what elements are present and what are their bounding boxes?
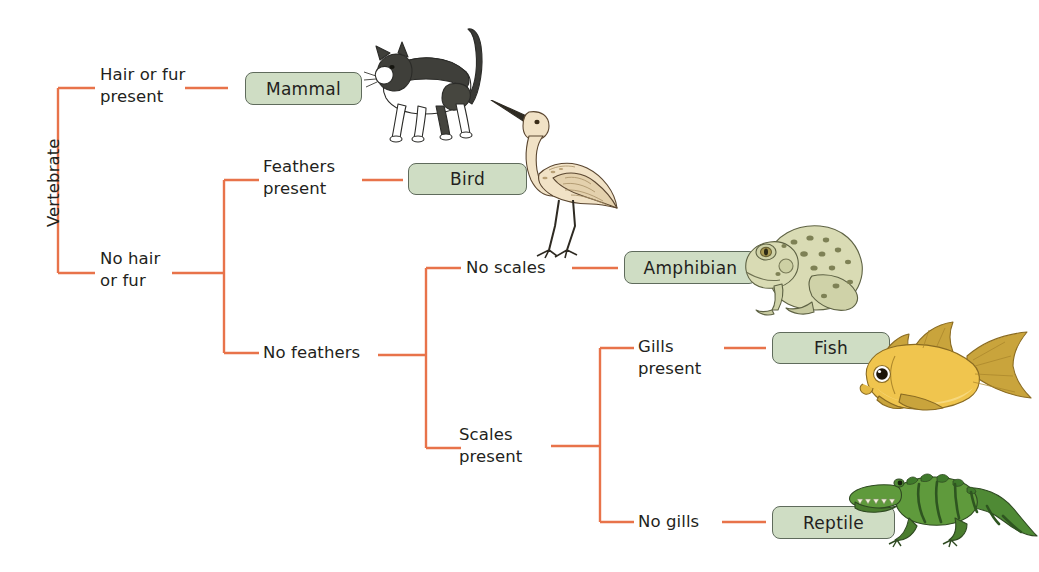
cat-illustration xyxy=(362,22,492,144)
crane-illustration xyxy=(487,100,627,260)
criterion-gills-present: Gills present xyxy=(638,336,701,380)
criterion-no-scales: No scales xyxy=(466,257,546,279)
taxon-box-mammal[interactable]: Mammal xyxy=(245,72,362,105)
criterion-no-hair-or-fur: No hair or fur xyxy=(100,248,160,292)
root-label-vertebrate: Vertebrate xyxy=(44,138,63,227)
crocodile-illustration xyxy=(845,452,1039,558)
criterion-scales-present: Scales present xyxy=(459,424,522,468)
criterion-no-gills: No gills xyxy=(638,511,699,533)
dichotomous-key-diagram: Vertebrate Hair or fur present No hair o… xyxy=(0,0,1039,572)
goldfish-illustration xyxy=(855,316,1039,418)
criterion-feathers-present: Feathers present xyxy=(263,156,335,200)
frog-illustration xyxy=(738,216,866,318)
criterion-hair-or-fur-present: Hair or fur present xyxy=(100,64,185,108)
criterion-no-feathers: No feathers xyxy=(263,342,360,364)
